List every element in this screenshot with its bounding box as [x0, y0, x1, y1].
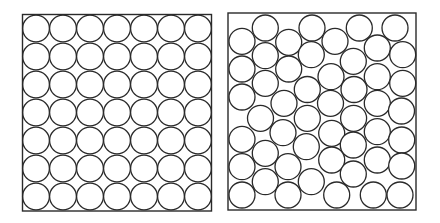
disk-circle	[318, 90, 344, 116]
disk-circle	[340, 161, 366, 187]
disk-circle	[229, 28, 255, 54]
disk-circle	[158, 43, 185, 70]
disk-circle	[298, 169, 324, 195]
disk-circle	[276, 29, 302, 55]
disk-circle	[252, 169, 278, 195]
disk-circle	[294, 77, 320, 103]
disk-circle	[104, 15, 131, 42]
disk-circle	[294, 105, 320, 131]
disk-circle	[104, 183, 131, 210]
disk-circle	[382, 15, 408, 41]
disk-circle	[23, 15, 50, 42]
disk-circle	[131, 43, 158, 70]
disk-circle	[390, 42, 416, 68]
disk-circle	[185, 127, 212, 154]
disk-circle	[271, 90, 297, 116]
disk-circle	[50, 99, 77, 126]
disk-circle	[293, 134, 319, 160]
disk-circle	[275, 182, 301, 208]
disk-circle	[50, 43, 77, 70]
disk-circle	[346, 15, 372, 41]
disk-circle	[364, 64, 390, 90]
disk-circle	[229, 56, 255, 82]
packing-comparison-figure	[0, 0, 440, 223]
disk-circle	[23, 99, 50, 126]
disk-circle	[77, 43, 104, 70]
disk-circle	[23, 155, 50, 182]
disk-circle	[364, 147, 390, 173]
disk-circle	[340, 48, 366, 74]
disk-circle	[77, 15, 104, 42]
disk-circle	[77, 71, 104, 98]
disk-circle	[77, 183, 104, 210]
disk-circle	[104, 99, 131, 126]
disk-circle	[131, 99, 158, 126]
disk-circle	[229, 182, 255, 208]
disk-circle	[252, 70, 278, 96]
disk-circle	[322, 28, 348, 54]
disk-circle	[389, 127, 415, 153]
disk-circle	[389, 153, 415, 179]
disk-circle	[158, 99, 185, 126]
disk-circle	[50, 127, 77, 154]
disk-circle	[185, 71, 212, 98]
disk-circle	[158, 15, 185, 42]
disk-circle	[229, 126, 255, 152]
disk-circle	[341, 77, 367, 103]
disk-circle	[131, 127, 158, 154]
ordered-packing-panel	[23, 15, 212, 212]
disk-circle	[248, 105, 274, 131]
disk-circle	[104, 43, 131, 70]
disk-circle	[185, 15, 212, 42]
disk-circle	[364, 90, 390, 116]
disk-circle	[387, 182, 413, 208]
disk-circle	[104, 155, 131, 182]
disk-circle	[185, 43, 212, 70]
disk-circle	[131, 71, 158, 98]
disk-circle	[341, 105, 367, 131]
disk-circle	[270, 120, 296, 146]
disk-circle	[252, 140, 278, 166]
disk-circle	[50, 155, 77, 182]
disk-circle	[23, 127, 50, 154]
disk-circle	[364, 119, 390, 145]
disk-circle	[50, 15, 77, 42]
disk-circle	[104, 127, 131, 154]
disk-circle	[252, 43, 278, 69]
disk-circle	[185, 155, 212, 182]
disk-circle	[364, 35, 390, 61]
disk-circle	[324, 182, 350, 208]
disk-circle	[104, 71, 131, 98]
disk-circle	[252, 15, 278, 41]
disk-circle	[131, 155, 158, 182]
disk-circle	[298, 42, 324, 68]
disk-circle	[318, 64, 344, 90]
disk-circle	[360, 182, 386, 208]
disk-circle	[390, 70, 416, 96]
disordered-packing-panel	[228, 13, 416, 210]
disk-circle	[23, 43, 50, 70]
disk-circle	[77, 155, 104, 182]
disk-circle	[185, 99, 212, 126]
disk-circle	[158, 127, 185, 154]
disk-circle	[158, 71, 185, 98]
disk-circle	[229, 84, 255, 110]
disk-circle	[131, 15, 158, 42]
disk-circle	[50, 183, 77, 210]
disk-circle	[50, 71, 77, 98]
disk-circle	[158, 183, 185, 210]
disk-circle	[299, 15, 325, 41]
disk-circle	[229, 154, 255, 180]
disk-circle	[77, 99, 104, 126]
disk-circle	[23, 71, 50, 98]
disk-circle	[276, 56, 302, 82]
disk-circle	[389, 98, 415, 124]
disk-circle	[275, 154, 301, 180]
disk-circle	[340, 132, 366, 158]
disk-circle	[185, 183, 212, 210]
disk-circle	[131, 183, 158, 210]
disk-circle	[23, 183, 50, 210]
disk-circle	[77, 127, 104, 154]
disk-circle	[158, 155, 185, 182]
